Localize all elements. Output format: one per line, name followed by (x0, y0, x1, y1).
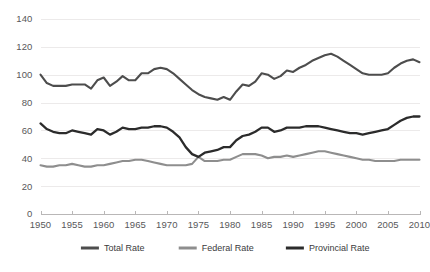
legend-group: Total RateFederal RateProvincial Rate (81, 243, 369, 253)
y-tick-label-100: 100 (16, 69, 32, 80)
x-tick-label-2010: 2010 (409, 219, 430, 230)
chart-canvas: 020406080100120140 195019551960196519701… (0, 0, 430, 272)
line-chart-figure: 020406080100120140 195019551960196519701… (0, 0, 430, 272)
series-group (41, 54, 420, 167)
legend-label-total-rate: Total Rate (104, 243, 145, 253)
x-tick-label-1950: 1950 (30, 219, 52, 230)
x-tick-label-1965: 1965 (124, 219, 146, 230)
y-tick-label-120: 120 (16, 41, 32, 52)
x-tick-label-1960: 1960 (93, 219, 115, 230)
y-tick-label-40: 40 (22, 153, 33, 164)
y-tick-label-60: 60 (22, 125, 33, 136)
x-tick-label-1995: 1995 (314, 219, 336, 230)
x-tick-label-2000: 2000 (346, 219, 368, 230)
y-axis-labels-group: 020406080100120140 (16, 13, 32, 219)
series-line-total-rate (41, 54, 420, 100)
y-tick-label-20: 20 (22, 181, 33, 192)
x-axis-group: 1950195519601965197019751980198519901995… (30, 211, 430, 230)
gridlines-group (41, 20, 420, 187)
x-tick-label-1970: 1970 (156, 219, 178, 230)
x-tick-label-1980: 1980 (219, 219, 241, 230)
legend-label-federal-rate: Federal Rate (202, 243, 254, 253)
legend-label-provincial-rate: Provincial Rate (309, 243, 370, 253)
x-tick-label-1985: 1985 (251, 219, 273, 230)
y-tick-label-140: 140 (16, 13, 32, 24)
x-tick-label-1990: 1990 (282, 219, 304, 230)
x-tick-label-2005: 2005 (377, 219, 399, 230)
x-tick-label-1975: 1975 (188, 219, 210, 230)
x-tick-label-1955: 1955 (61, 219, 83, 230)
series-line-provincial-rate (41, 117, 420, 157)
y-tick-label-80: 80 (22, 97, 33, 108)
